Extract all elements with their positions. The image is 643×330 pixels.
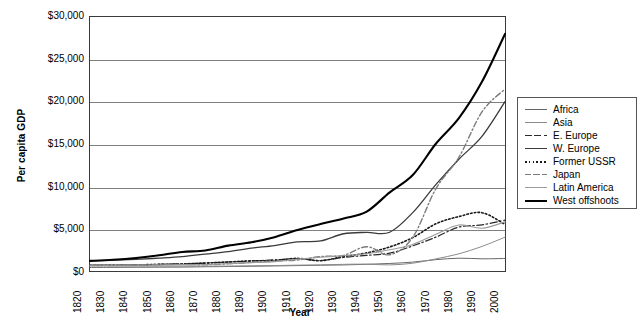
legend-item[interactable]: E. Europe [524,129,632,142]
x-axis-tick-labels: 1820183018401850186018701880189019001910… [89,274,506,308]
legend-item[interactable]: W. Europe [524,142,632,155]
legend: AfricaAsiaE. EuropeW. EuropeFormer USSRJ… [517,97,637,209]
plot-area [89,16,506,272]
legend-line-swatch [524,169,548,181]
legend-item[interactable]: Asia [524,116,632,129]
per-capita-gdp-line-chart: Per capita GDP $0$5,000$10,000$15,000$20… [0,0,643,330]
legend-line-swatch [524,130,548,142]
legend-label: Asia [548,117,572,129]
series-svg [90,17,505,271]
legend-item[interactable]: West offshoots [524,194,632,207]
legend-label: W. Europe [548,143,600,155]
legend-line-swatch [524,143,548,155]
y-tick-label: $10,000 [22,182,84,192]
legend-line-swatch [524,182,548,194]
legend-item[interactable]: Latin America [524,181,632,194]
legend-item[interactable]: Japan [524,168,632,181]
legend-label: E. Europe [548,130,597,142]
series-line-west-offshoots [90,34,505,261]
legend-label: Former USSR [548,156,616,168]
legend-item[interactable]: Former USSR [524,155,632,168]
y-tick-label: $25,000 [22,54,84,64]
y-tick-label: $30,000 [22,11,84,21]
series-line-w-europe [90,102,505,261]
y-tick-label: $5,000 [22,224,84,234]
legend-line-swatch [524,156,548,168]
y-tick-label: $20,000 [22,96,84,106]
x-tick-label: 2000 [489,274,523,308]
legend-item[interactable]: Africa [524,103,632,116]
legend-line-swatch [524,195,548,207]
legend-label: Japan [548,169,580,181]
series-canvas [90,17,505,271]
legend-label: West offshoots [548,195,619,207]
legend-label: Africa [548,104,579,116]
legend-line-swatch [524,117,548,129]
y-tick-label: $15,000 [22,139,84,149]
legend-label: Latin America [548,182,614,194]
x-axis-title: Year [200,307,400,318]
legend-line-swatch [524,104,548,116]
